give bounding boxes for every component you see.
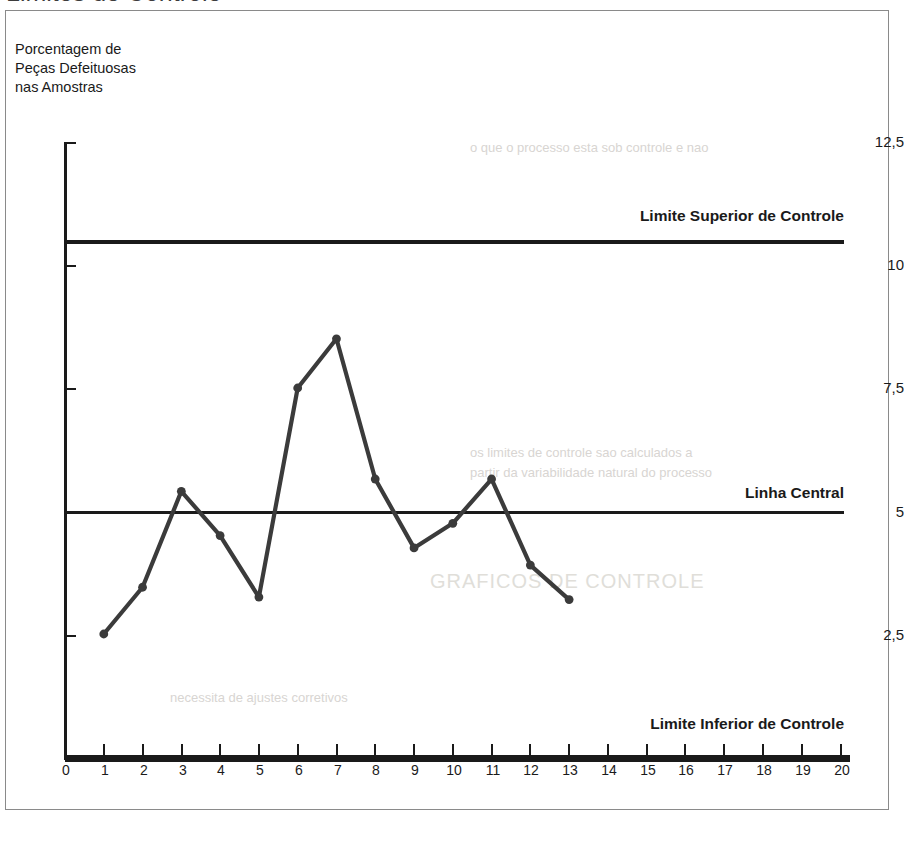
data-point <box>410 544 419 553</box>
data-point <box>138 583 147 592</box>
data-series-line <box>104 339 569 634</box>
data-point <box>371 475 380 484</box>
control-chart-plot: 12,5 10 7,5 5 2,5 0 1 2 3 4 5 6 7 8 9 10… <box>0 0 904 841</box>
data-point <box>255 593 264 602</box>
data-point <box>487 475 496 484</box>
data-point <box>332 334 341 343</box>
data-point <box>526 561 535 570</box>
data-point <box>293 384 302 393</box>
data-point <box>565 595 574 604</box>
data-series-svg <box>0 0 904 841</box>
data-point <box>177 487 186 496</box>
data-point <box>448 519 457 528</box>
data-point <box>99 630 108 639</box>
data-point-markers <box>99 334 573 638</box>
data-point <box>216 531 225 540</box>
